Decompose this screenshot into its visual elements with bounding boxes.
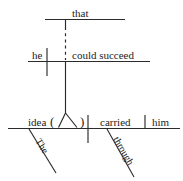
stand-right-leg bbox=[66, 113, 78, 128]
open-paren: ( bbox=[50, 114, 54, 129]
stand-left-leg bbox=[59, 113, 66, 128]
word-him: him bbox=[152, 116, 170, 128]
close-paren: ) bbox=[80, 114, 84, 129]
word-carried: carried bbox=[100, 116, 131, 128]
word-could-succeed: could succeed bbox=[72, 49, 134, 61]
word-idea: idea bbox=[28, 116, 46, 128]
sentence-diagram: that he could succeed ( ) idea carried h… bbox=[0, 0, 183, 181]
word-he: he bbox=[32, 49, 43, 61]
word-that: that bbox=[72, 7, 89, 19]
diagram-canvas: that he could succeed ( ) idea carried h… bbox=[0, 0, 183, 181]
word-through: through bbox=[111, 135, 136, 167]
word-the: The bbox=[33, 136, 51, 155]
